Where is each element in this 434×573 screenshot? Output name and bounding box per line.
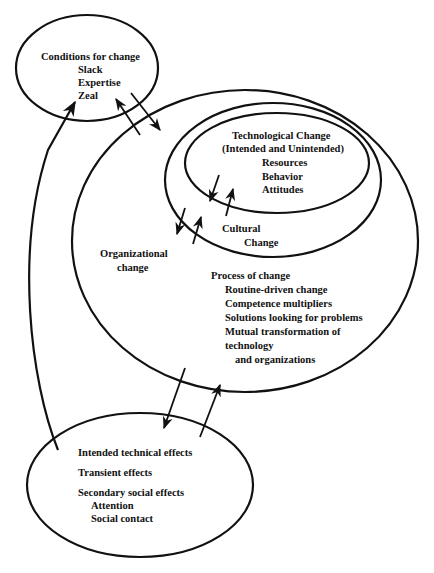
process-item: Competence multipliers <box>225 297 332 310</box>
effects-sub-item: Attention <box>91 499 134 512</box>
effects-item: Intended technical effects <box>78 446 192 459</box>
technological-item: Attitudes <box>262 183 303 196</box>
arrow-cultural-to-org <box>177 208 185 234</box>
organizational-label-line1: Organizational <box>100 247 168 260</box>
arrow-tech-to-cultural <box>210 175 219 201</box>
process-item: and organizations <box>235 353 315 366</box>
effects-item: Secondary social effects <box>78 486 184 499</box>
technological-item: Behavior <box>262 170 303 183</box>
process-item: Routine-driven change <box>225 283 327 296</box>
conditions-item: Zeal <box>78 89 98 102</box>
conditions-title: Conditions for change <box>41 50 140 63</box>
arrow-org-to-cultural <box>193 217 201 244</box>
organizational-label-line2: change <box>117 261 149 274</box>
arrow-cultural-to-tech <box>226 189 233 216</box>
process-item: technology <box>225 339 273 352</box>
process-title: Process of change <box>211 269 290 282</box>
process-item: Mutual transformation of <box>225 325 341 338</box>
effects-ellipse <box>27 413 253 557</box>
conditions-item: Slack <box>78 63 103 76</box>
process-item: Solutions looking for problems <box>225 311 363 324</box>
conditions-item: Expertise <box>78 76 121 89</box>
effects-sub-item: Social contact <box>91 512 153 525</box>
technological-subtitle: (Intended and Unintended) <box>222 142 344 155</box>
feedback-arrow <box>29 102 75 450</box>
effects-item: Transient effects <box>78 466 152 479</box>
diagram-canvas <box>0 0 434 573</box>
technological-title: Technological Change <box>232 129 331 142</box>
cultural-label-line2: Change <box>244 236 278 249</box>
technological-item: Resources <box>262 156 307 169</box>
cultural-label-line1: Cultural <box>222 222 261 235</box>
